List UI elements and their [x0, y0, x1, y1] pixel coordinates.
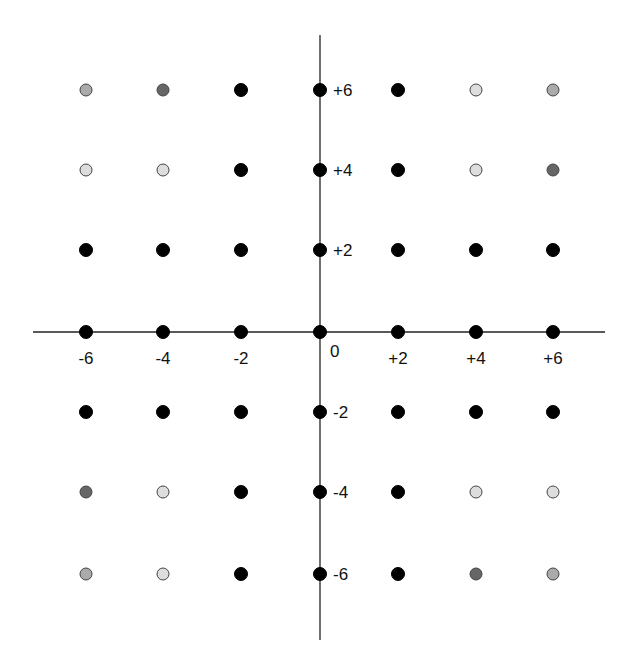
- lattice-point: [235, 244, 248, 257]
- lattice-point: [80, 486, 92, 498]
- lattice-point: [392, 486, 405, 499]
- lattice-point: [157, 164, 169, 176]
- lattice-point: [392, 164, 405, 177]
- lattice-point: [157, 84, 169, 96]
- lattice-point: [235, 164, 248, 177]
- lattice-point: [157, 244, 170, 257]
- lattice-point: [314, 84, 327, 97]
- lattice-point: [470, 244, 483, 257]
- lattice-point: [235, 326, 248, 339]
- lattice-point: [235, 406, 248, 419]
- lattice-point: [314, 406, 327, 419]
- origin-label: 0: [330, 342, 339, 361]
- lattice-point: [470, 406, 483, 419]
- lattice-point: [547, 326, 560, 339]
- y-tick-label: +6: [333, 81, 352, 100]
- x-tick-label: -4: [155, 349, 170, 368]
- y-tick-label: +2: [333, 241, 352, 260]
- lattice-point: [80, 326, 93, 339]
- lattice-point: [470, 164, 482, 176]
- lattice-point: [157, 406, 170, 419]
- lattice-point: [235, 568, 248, 581]
- lattice-point: [314, 164, 327, 177]
- lattice-point: [314, 326, 327, 339]
- lattice-point: [392, 244, 405, 257]
- lattice-diagram: -6-4-2+2+4+6+6+4+2-2-4-60: [0, 0, 638, 669]
- lattice-point: [157, 568, 169, 580]
- lattice-point: [470, 568, 482, 580]
- lattice-point: [470, 326, 483, 339]
- lattice-point: [314, 486, 327, 499]
- lattice-point: [547, 568, 559, 580]
- lattice-point: [235, 486, 248, 499]
- x-tick-label: +4: [466, 349, 485, 368]
- lattice-point: [80, 84, 92, 96]
- lattice-point: [547, 164, 559, 176]
- lattice-point: [80, 406, 93, 419]
- x-tick-label: +6: [543, 349, 562, 368]
- lattice-point: [157, 326, 170, 339]
- x-tick-label: +2: [388, 349, 407, 368]
- lattice-point: [235, 84, 248, 97]
- lattice-point: [470, 84, 482, 96]
- lattice-point: [470, 486, 482, 498]
- lattice-point: [314, 568, 327, 581]
- lattice-point: [157, 486, 169, 498]
- y-tick-label: -4: [333, 483, 348, 502]
- lattice-point: [80, 164, 92, 176]
- lattice-point: [547, 84, 559, 96]
- y-tick-label: -6: [333, 565, 348, 584]
- y-tick-label: +4: [333, 161, 352, 180]
- lattice-point: [80, 568, 92, 580]
- x-tick-label: -2: [233, 349, 248, 368]
- lattice-point: [547, 244, 560, 257]
- lattice-point: [392, 568, 405, 581]
- lattice-point: [547, 406, 560, 419]
- x-tick-label: -6: [78, 349, 93, 368]
- lattice-point: [547, 486, 559, 498]
- lattice-point: [314, 244, 327, 257]
- lattice-point: [392, 84, 405, 97]
- lattice-point: [392, 326, 405, 339]
- lattice-point: [392, 406, 405, 419]
- lattice-point: [80, 244, 93, 257]
- y-tick-label: -2: [333, 403, 348, 422]
